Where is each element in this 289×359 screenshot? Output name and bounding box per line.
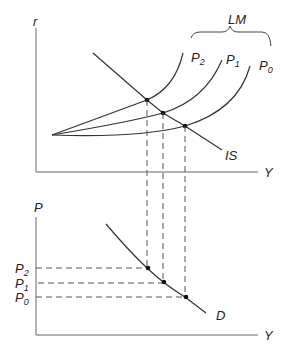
lm-label-p2: P2 xyxy=(191,50,205,67)
lm-brace xyxy=(191,26,271,46)
is-label: IS xyxy=(225,148,238,163)
lm-label: LM xyxy=(228,12,246,27)
bottom-panel: P Y P2 P1 P0 D xyxy=(15,200,274,343)
y-axis-label-bottom: Y xyxy=(264,328,274,343)
demand-point-p2 xyxy=(146,266,151,271)
demand-point-p0 xyxy=(184,295,189,300)
p-axis-label: P xyxy=(34,200,43,215)
demand-point-p1 xyxy=(162,280,167,285)
lm-label-p1: P1 xyxy=(226,52,240,69)
y-axis-label-top: Y xyxy=(264,165,274,180)
lm-label-p0: P0 xyxy=(259,58,273,75)
is-lm-ad-diagram: r Y LM P2 P1 P0 IS P Y xyxy=(0,0,289,359)
top-panel: r Y LM P2 P1 P0 IS xyxy=(33,12,274,180)
demand-label: D xyxy=(216,308,225,323)
r-axis-label: r xyxy=(33,14,38,29)
lm-curve-p0 xyxy=(52,66,250,136)
lm-curve-p1 xyxy=(52,60,222,135)
